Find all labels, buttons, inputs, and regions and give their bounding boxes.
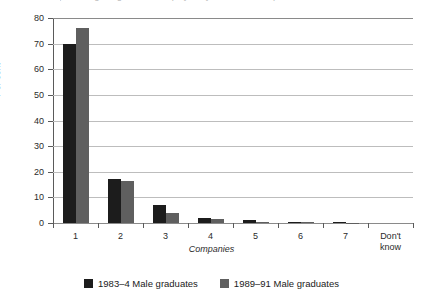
y-axis-tick [48,95,53,96]
bar-group [198,18,224,223]
x-axis-tick [413,223,414,228]
bar-group [378,18,404,223]
y-axis-tick-label: 80 [0,13,44,23]
bar [211,219,224,223]
plot-area [53,18,413,223]
bar-group [288,18,314,223]
y-axis-tick-label: 30 [0,141,44,151]
y-axis-tick-label: 60 [0,64,44,74]
legend-swatch [220,279,229,288]
x-axis-tick [368,223,369,228]
x-axis-tick-label: Don'tknow [361,231,421,253]
bar-group [63,18,89,223]
bar-group [153,18,179,223]
bar [108,179,121,223]
y-axis-tick [48,69,53,70]
legend-label: 1983–4 Male graduates [98,278,198,289]
bar [63,44,76,223]
bar [346,223,359,224]
y-axis-tick-label: 10 [0,192,44,202]
y-axis-title: Per cent [0,62,2,96]
y-axis-tick [48,197,53,198]
bar-group [333,18,359,223]
bar [121,181,134,223]
bar [76,28,89,223]
bar-group [108,18,134,223]
y-axis-tick-labels: 01020304050607080 [0,0,46,306]
x-axis-tick [278,223,279,228]
legend-item: 1989–91 Male graduates [220,278,339,289]
y-axis-tick-label: 0 [0,218,44,228]
x-axis-tick [98,223,99,228]
y-axis-tick [48,44,53,45]
y-axis-tick-label: 50 [0,90,44,100]
bar [256,222,269,223]
legend-swatch [84,279,93,288]
y-axis-tick-label: 70 [0,39,44,49]
bar [198,218,211,223]
x-axis-tick [143,223,144,228]
y-axis-tick-label: 20 [0,167,44,177]
bar-group [243,18,269,223]
bar-chart: 01020304050607080 Per cent Companies 198… [0,0,423,306]
bar [153,205,166,223]
bar [301,222,314,223]
y-axis-tick [48,146,53,147]
y-axis-tick [48,172,53,173]
x-axis-tick [53,223,54,228]
bar [333,222,346,223]
bar [166,213,179,223]
bar [243,220,256,223]
x-axis-tick [188,223,189,228]
y-axis-tick-label: 40 [0,116,44,126]
x-axis-tick [323,223,324,228]
legend-item: 1983–4 Male graduates [84,278,198,289]
bar [288,222,301,223]
y-axis-tick [48,121,53,122]
legend-label: 1989–91 Male graduates [234,278,339,289]
x-axis-tick [233,223,234,228]
chart-legend: 1983–4 Male graduates1989–91 Male gradua… [0,278,423,289]
y-axis-tick [48,18,53,19]
